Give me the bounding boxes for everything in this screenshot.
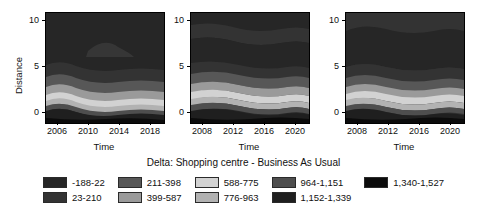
panel-3: 10 5 0 <box>315 0 487 157</box>
panel-3-ytick-0: 0 <box>317 107 339 117</box>
legend-entry-label: 588-775 <box>224 177 259 188</box>
panel-2-ytick-5: 5 <box>162 61 184 71</box>
panel-2-plot-area <box>190 12 310 124</box>
panel-1-xtick-2010: 2010 <box>73 126 103 136</box>
panel-1-xtick-2006: 2006 <box>42 126 72 136</box>
legend-swatch-icon <box>43 192 67 203</box>
legend-column-2: 211-398 399-587 <box>118 176 182 203</box>
panel-3-xtickmark-2 <box>419 122 420 125</box>
panel-3-xtick-2020: 2020 <box>435 126 465 136</box>
panel-3-ytick-10: 10 <box>317 15 339 25</box>
legend-entry-label: 211-398 <box>147 177 181 188</box>
legend-swatch-icon <box>195 192 219 203</box>
legend-swatch-icon <box>43 177 67 188</box>
panel-3-xtick-2016: 2016 <box>404 126 434 136</box>
panel-3-xtick-2008: 2008 <box>342 126 372 136</box>
panel-2-xtickmark-2 <box>264 122 265 125</box>
legend-entry-label: 399-587 <box>147 192 182 203</box>
panel-1-xtick-2014: 2014 <box>104 126 134 136</box>
legend-swatch-icon <box>118 192 142 203</box>
panel-1-x-axis-label: Time <box>45 141 163 152</box>
legend-swatch-icon <box>272 192 296 203</box>
panel-2-x-axis-label: Time <box>190 141 308 152</box>
panel-3-x-axis-label: Time <box>345 141 463 152</box>
panel-2-xtick-2012: 2012 <box>218 126 248 136</box>
panel-2-ytick-0: 0 <box>162 107 184 117</box>
panel-1-ytick-0: 0 <box>17 107 39 117</box>
legend-swatch-icon <box>364 177 388 188</box>
panel-3-xtickmark-3 <box>450 122 451 125</box>
legend-title: Delta: Shopping centre - Business As Usu… <box>0 157 487 168</box>
panel-2-xtickmark-1 <box>233 122 234 125</box>
panel-1-contour-svg <box>46 13 164 123</box>
legend-entry-label: 964-1,151 <box>301 177 344 188</box>
legend-column-3: 588-775 776-963 <box>195 176 259 203</box>
legend-swatch-icon <box>272 177 296 188</box>
legend-entry[interactable]: 1,340-1,527 <box>364 176 444 188</box>
legend-entry[interactable]: 776-963 <box>195 191 259 203</box>
legend-items: -188-22 23-210 211-398 399-587 <box>0 176 487 203</box>
panel-1: Distance 10 5 0 <box>0 0 170 157</box>
panel-3-xtick-2012: 2012 <box>373 126 403 136</box>
panel-1-ytick-10: 10 <box>17 15 39 25</box>
legend: Delta: Shopping centre - Business As Usu… <box>0 157 487 168</box>
panel-1-xtickmark-2 <box>119 122 120 125</box>
legend-column-5: 1,340-1,527 <box>364 176 444 203</box>
panel-3-contour-svg <box>346 13 464 123</box>
contour-figure: Distance 10 5 0 <box>0 0 487 217</box>
panel-2-xtick-2016: 2016 <box>249 126 279 136</box>
legend-column-4: 964-1,151 1,152-1,339 <box>272 176 352 203</box>
panel-1-xtickmark-3 <box>150 122 151 125</box>
panel-1-xtickmark-1 <box>88 122 89 125</box>
legend-swatch-icon <box>118 177 142 188</box>
panel-1-plot-area <box>45 12 165 124</box>
panel-3-ytick-5: 5 <box>317 61 339 71</box>
legend-entry-label: 1,152-1,339 <box>301 192 352 203</box>
panel-3-plot-area <box>345 12 465 124</box>
panel-2-xtick-2020: 2020 <box>280 126 310 136</box>
panel-1-ytick-5: 5 <box>17 61 39 71</box>
panel-2-xtickmark-0 <box>202 122 203 125</box>
legend-entry-label: -188-22 <box>72 177 105 188</box>
legend-entry[interactable]: -188-22 <box>43 176 105 188</box>
panel-2-contour-svg <box>191 13 309 123</box>
legend-entry[interactable]: 1,152-1,339 <box>272 191 352 203</box>
legend-entry-label: 1,340-1,527 <box>393 177 444 188</box>
legend-column-1: -188-22 23-210 <box>43 176 105 203</box>
panel-2-xtickmark-3 <box>295 122 296 125</box>
panel-2-xtick-2008: 2008 <box>187 126 217 136</box>
legend-entry[interactable]: 399-587 <box>118 191 182 203</box>
legend-entry-label: 776-963 <box>224 192 259 203</box>
panel-2-ytick-10: 10 <box>162 15 184 25</box>
panel-2: 10 5 0 <box>160 0 322 157</box>
panel-1-xtickmark-0 <box>57 122 58 125</box>
panel-3-xtickmark-0 <box>357 122 358 125</box>
panel-3-xtickmark-1 <box>388 122 389 125</box>
legend-swatch-icon <box>195 177 219 188</box>
legend-entry[interactable]: 211-398 <box>118 176 182 188</box>
legend-entry[interactable]: 23-210 <box>43 191 105 203</box>
legend-entry[interactable]: 964-1,151 <box>272 176 352 188</box>
legend-entry[interactable]: 588-775 <box>195 176 259 188</box>
legend-entry-label: 23-210 <box>72 192 102 203</box>
